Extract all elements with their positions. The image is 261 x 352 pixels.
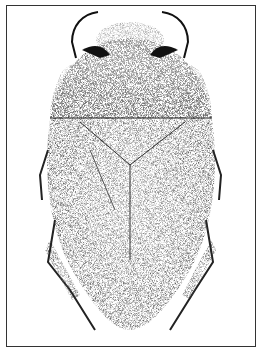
insect-illustration — [0, 0, 261, 352]
